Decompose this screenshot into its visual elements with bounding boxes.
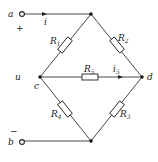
label-r4: R4 (50, 109, 62, 120)
label-i5: i5 (113, 64, 120, 75)
label-plus: + (16, 23, 24, 33)
label-r1: R1 (49, 36, 61, 47)
terminal-a (20, 12, 25, 17)
current-i5-arrow-icon (118, 75, 123, 79)
node-c (38, 75, 41, 78)
label-d: d (147, 72, 153, 82)
label-r3: R3 (119, 109, 131, 120)
terminal-b (20, 140, 25, 145)
node-top (89, 12, 92, 15)
current-i-arrow-icon (42, 12, 47, 16)
label-c: c (34, 81, 39, 91)
label-a: a (8, 9, 13, 19)
node-d (140, 75, 143, 78)
label-minus: − (10, 126, 18, 136)
label-i: i (44, 17, 47, 27)
label-u: u (15, 72, 21, 82)
label-b: b (8, 137, 14, 147)
label-r5: R5 (83, 64, 95, 75)
label-r2: R2 (117, 33, 129, 44)
node-bottom (89, 139, 92, 142)
bridge-circuit-diagram: a + i R1 R2 R5 i5 u c d R4 R3 − b (0, 0, 158, 162)
